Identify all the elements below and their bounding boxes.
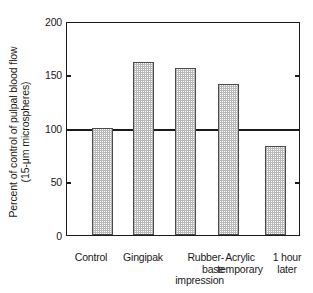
y-axis-tick-labels: 200 150 100 50 0 xyxy=(31,0,62,293)
bar-rubber-base-impression xyxy=(175,68,196,235)
y-tick-label-0: 0 xyxy=(32,231,62,241)
y-tick-mark-50 xyxy=(67,182,71,184)
y-axis-title-line-1: Percent of control of pulpal blood flow xyxy=(7,46,19,217)
x-label-1-hour-later: 1 hour later xyxy=(259,252,313,275)
y-tick-label-150: 150 xyxy=(32,70,62,80)
y-tick-mark-right-150 xyxy=(295,75,299,77)
plot-area xyxy=(66,22,300,236)
bar-acrylic-temporary xyxy=(218,84,239,235)
y-axis-title-line-2: (15-μm microspheres) xyxy=(19,82,31,183)
y-tick-label-50: 50 xyxy=(32,177,62,187)
bar-1-hour-later xyxy=(265,146,286,235)
bar-chart-figure: Percent of control of pulpal blood flow … xyxy=(0,0,313,293)
bar-control xyxy=(92,128,113,235)
y-tick-label-100: 100 xyxy=(32,124,62,134)
y-tick-label-200: 200 xyxy=(32,17,62,27)
y-tick-mark-150 xyxy=(67,75,71,77)
x-axis-category-labels: Control Gingipak Rubber- base impression… xyxy=(66,241,300,293)
y-tick-mark-right-50 xyxy=(295,182,299,184)
bar-gingipak xyxy=(133,62,154,235)
x-label-control: Control xyxy=(62,252,120,264)
